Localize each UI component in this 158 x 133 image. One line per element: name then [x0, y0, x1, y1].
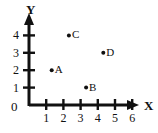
y-tick-label: 2 [10, 64, 22, 76]
data-point-b [84, 86, 88, 90]
x-tick-label: 3 [75, 112, 87, 124]
data-point-label-d: D [106, 47, 114, 58]
coordinate-plane-figure: Y X 0 123456 1234 ABCD [0, 0, 158, 133]
x-tick-label: 4 [92, 112, 104, 124]
y-tick-label: 3 [10, 47, 22, 59]
data-point-markers [50, 33, 106, 89]
x-tick-label: 6 [126, 112, 138, 124]
x-tick-label: 2 [57, 112, 69, 124]
data-point-label-b: B [89, 82, 96, 93]
y-tick-label: 4 [10, 29, 22, 41]
data-point-label-c: C [72, 29, 79, 40]
x-tick-label: 1 [40, 112, 52, 124]
data-point-c [67, 33, 71, 37]
origin-label: 0 [11, 100, 18, 113]
data-point-a [50, 68, 54, 72]
y-tick-label: 1 [10, 82, 22, 94]
x-tick-label: 5 [109, 112, 121, 124]
data-point-label-a: A [55, 64, 63, 75]
x-axis-label: X [144, 99, 153, 112]
y-axis-label: Y [26, 3, 35, 16]
data-point-d [101, 51, 105, 55]
